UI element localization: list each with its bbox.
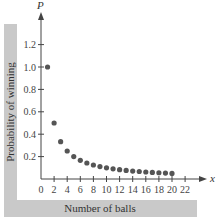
x-tick-label: 0 [39,184,44,195]
y-tick-label: 0.4 [24,129,37,140]
axes: Px0.20.40.60.81.01.20246810121416182022 [24,0,216,195]
data-points [45,64,175,176]
y-tick-label: 1.2 [24,39,37,50]
data-point [169,171,174,176]
x-tick-label: 14 [128,184,138,195]
data-point [150,170,155,175]
data-point [163,170,168,175]
y-tick-label: 0.2 [24,151,37,162]
data-point [156,170,161,175]
x-tick-label: 8 [91,184,96,195]
data-point [104,165,109,170]
x-tick-label: 16 [141,184,151,195]
y-axis-arrow-icon [38,12,44,20]
y-tick-label: 0.8 [24,84,37,95]
x-tick-label: 20 [167,184,177,195]
data-point [71,154,76,159]
x-tick-label: 12 [115,184,125,195]
x-tick-label: 18 [154,184,164,195]
data-point [97,164,102,169]
data-point [137,169,142,174]
data-point [52,120,57,125]
data-point [124,168,129,173]
y-axis-symbol: P [36,0,44,11]
data-point [78,158,83,163]
x-tick-label: 10 [102,184,112,195]
x-axis-arrow-icon [199,176,207,182]
data-point [143,169,148,174]
data-point [110,166,115,171]
data-point [65,148,70,153]
data-point [130,168,135,173]
scatter-plot: Px0.20.40.60.81.01.20246810121416182022 [0,0,219,221]
y-tick-label: 1.0 [24,62,37,73]
data-point [117,167,122,172]
data-point [91,162,96,167]
x-tick-label: 4 [65,184,70,195]
y-tick-label: 0.6 [24,106,37,117]
x-tick-label: 6 [78,184,83,195]
x-tick-label: 2 [52,184,57,195]
data-point [45,64,50,69]
data-point [84,160,89,165]
x-tick-label: 22 [180,184,190,195]
data-point [58,139,63,144]
x-axis-symbol: x [209,172,215,184]
